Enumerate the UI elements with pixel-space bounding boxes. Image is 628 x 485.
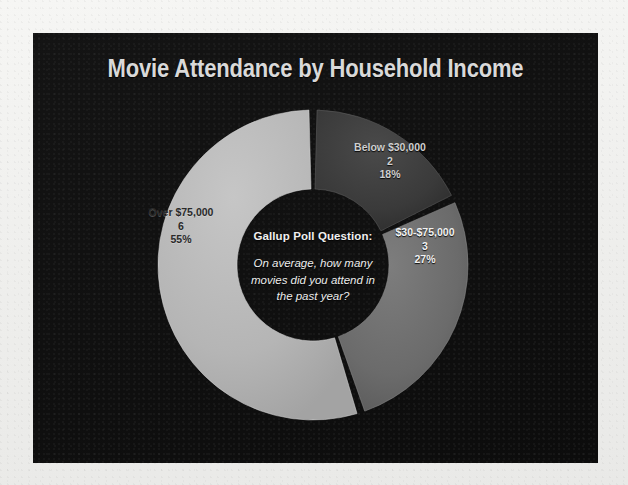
- donut-chart: [33, 33, 598, 463]
- page-background: Movie Attendance by Household Income: [0, 0, 628, 485]
- chart-panel: Movie Attendance by Household Income: [33, 33, 598, 463]
- donut-svg: [33, 33, 598, 463]
- donut-slices: [158, 110, 468, 420]
- donut-slice: [338, 203, 468, 411]
